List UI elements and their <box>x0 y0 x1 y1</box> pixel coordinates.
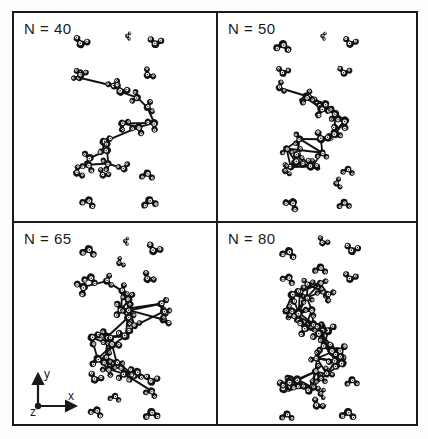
molecule <box>140 65 158 83</box>
molecule <box>320 31 328 41</box>
molecule <box>144 241 165 259</box>
molecule <box>123 236 130 246</box>
molecule <box>84 328 102 348</box>
molecule <box>343 242 362 256</box>
molecule <box>79 244 98 258</box>
panel-n80: N = 80 <box>218 223 415 424</box>
molecule <box>274 79 288 96</box>
molecule-canvas-n80 <box>218 223 415 424</box>
molecule <box>144 114 163 134</box>
molecule <box>114 255 127 270</box>
molecule <box>125 31 132 41</box>
panel-label-n40: N = 40 <box>24 20 72 37</box>
molecule <box>142 407 160 420</box>
molecule-canvas-n40 <box>14 13 216 221</box>
molecule <box>142 373 160 387</box>
molecule <box>281 194 302 214</box>
molecule <box>341 271 359 285</box>
molecule <box>96 140 115 160</box>
molecule <box>278 245 298 261</box>
molecule <box>107 392 122 403</box>
molecule <box>101 272 114 289</box>
molecule <box>293 131 303 146</box>
molecule <box>115 327 135 342</box>
molecule-canvas-n50 <box>218 13 415 221</box>
panel-label-n80: N = 80 <box>228 230 276 247</box>
molecule <box>71 34 91 51</box>
molecule <box>339 407 358 420</box>
molecule <box>279 410 295 421</box>
molecule <box>344 376 360 387</box>
molecule <box>147 36 165 49</box>
molecular-cluster <box>70 68 163 174</box>
figure-frame: N = 40 N = 50 N = 65 y x z <box>12 11 418 426</box>
molecule <box>315 235 331 250</box>
panel-n65: N = 65 y x z <box>14 223 216 424</box>
molecule <box>275 66 292 79</box>
molecule <box>139 269 158 287</box>
axis-triad-icon: y x z <box>28 364 90 416</box>
molecule <box>140 195 159 209</box>
figure-container: N = 40 N = 50 N = 65 y x z <box>0 0 428 439</box>
molecular-cluster <box>274 79 354 174</box>
molecule <box>279 271 298 287</box>
molecule <box>332 176 343 190</box>
panel-n40: N = 40 <box>14 13 216 221</box>
axis-label-y: y <box>44 367 50 381</box>
panel-n50: N = 50 <box>218 13 415 221</box>
molecule <box>279 144 294 155</box>
molecule <box>115 161 132 175</box>
molecule <box>273 39 293 54</box>
molecule <box>312 263 329 275</box>
panel-label-n65: N = 65 <box>24 230 72 247</box>
molecule <box>139 169 156 181</box>
molecule <box>336 199 352 210</box>
molecule <box>95 166 112 182</box>
panel-label-n50: N = 50 <box>228 20 276 37</box>
molecular-cluster <box>274 275 350 396</box>
molecule <box>341 35 359 49</box>
axis-label-x: x <box>68 389 74 403</box>
axis-label-z: z <box>30 405 36 416</box>
molecule <box>336 65 353 78</box>
molecule <box>340 165 356 177</box>
molecule <box>78 194 98 210</box>
molecule <box>129 88 143 106</box>
